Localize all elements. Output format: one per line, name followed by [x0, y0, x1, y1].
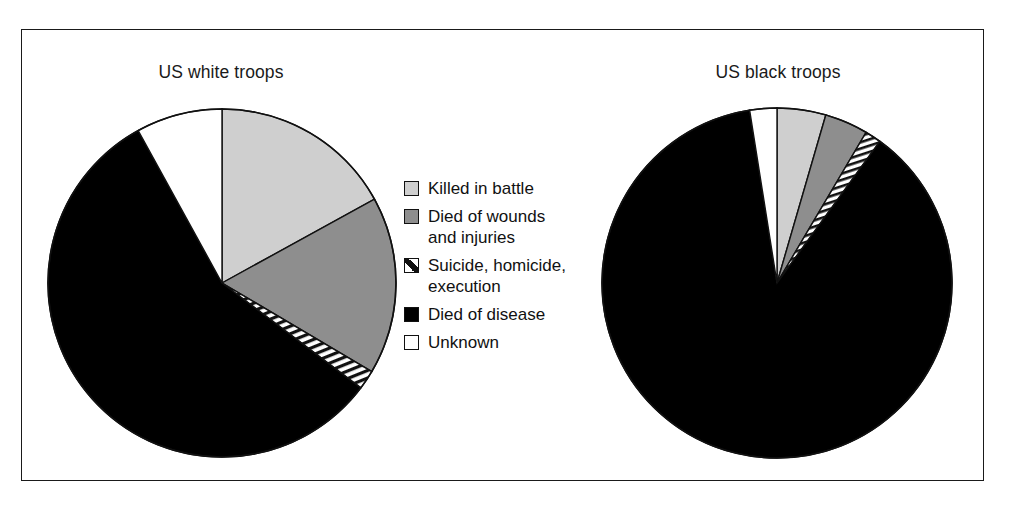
legend: Killed in battle Died of wounds and inju… [404, 178, 604, 360]
pie-chart-us-black-troops [595, 101, 960, 466]
legend-swatch-icon-died-of-disease [404, 307, 419, 322]
figure-canvas: US white troops US black troops Killed i… [0, 0, 1010, 521]
legend-label-suicide-homicide-execution: Suicide, homicide, execution [428, 255, 566, 297]
legend-swatch-icon-died-of-wounds [404, 209, 419, 224]
legend-swatch-icon-killed-in-battle [404, 181, 419, 196]
legend-item-died-of-disease: Died of disease [404, 304, 604, 325]
legend-item-killed-in-battle: Killed in battle [404, 178, 604, 199]
legend-item-unknown: Unknown [404, 332, 604, 353]
legend-item-suicide-homicide-execution: Suicide, homicide, execution [404, 255, 604, 297]
legend-swatch-icon-unknown [404, 335, 419, 350]
legend-label-died-of-disease: Died of disease [428, 304, 545, 325]
chart-title-us-white-troops: US white troops [131, 62, 311, 83]
legend-label-killed-in-battle: Killed in battle [428, 178, 534, 199]
legend-label-unknown: Unknown [428, 332, 499, 353]
legend-label-died-of-wounds: Died of wounds and injuries [428, 206, 545, 248]
chart-title-us-black-troops: US black troops [688, 62, 868, 83]
legend-item-died-of-wounds: Died of wounds and injuries [404, 206, 604, 248]
pie-chart-us-white-troops [40, 101, 405, 466]
legend-swatch-icon-suicide-homicide-execution [404, 258, 419, 273]
